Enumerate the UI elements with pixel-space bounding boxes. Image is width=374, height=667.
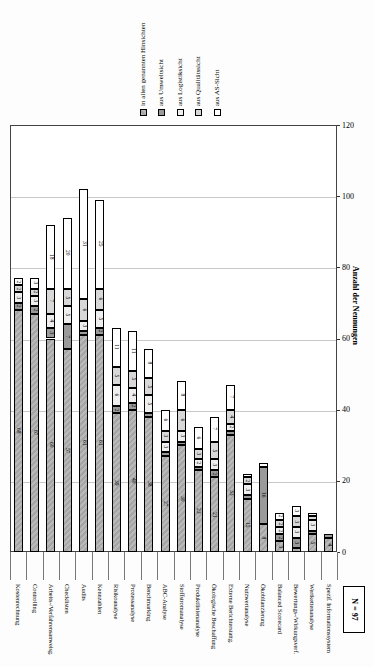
gridline-80 (11, 268, 336, 269)
category-tick-mark (92, 552, 93, 580)
gridline-40 (11, 411, 336, 412)
category-label: Ökobilanzierung (259, 584, 267, 626)
bar-segment (79, 189, 88, 299)
bar-segment (161, 410, 170, 431)
value-tick-mark (337, 267, 340, 268)
legend-swatch (214, 109, 221, 116)
bar-segment (210, 477, 219, 552)
bar-segment (275, 520, 284, 527)
bar-segment (112, 328, 121, 367)
category-tick-mark (190, 552, 191, 580)
category-label: Balanced Scorecard (276, 584, 284, 634)
legend-swatch (140, 109, 147, 116)
bar-segment (30, 289, 39, 296)
rotated-stacked-bar-chart: Anzahl der Nennungen N = 97 020406080100… (0, 0, 374, 667)
bar-segment (128, 410, 137, 552)
bar-segment (275, 534, 284, 541)
bar-segment (210, 442, 219, 460)
gridline-20 (11, 482, 336, 483)
bar-segment (63, 289, 72, 307)
legend-label: aus Umweltsicht (157, 59, 166, 106)
bar-segment (14, 278, 23, 285)
bar-segment (14, 292, 23, 303)
bar-segment (292, 548, 301, 552)
bar-segment (79, 321, 88, 332)
bar-segment (308, 520, 317, 531)
bar-segment (292, 516, 301, 527)
bar-segment (95, 289, 104, 310)
bar-segment (226, 431, 235, 435)
value-tick-label: 100 (342, 192, 354, 201)
value-tick-mark (337, 125, 340, 126)
bar-segment (79, 331, 88, 335)
category-tick-mark (288, 552, 289, 580)
bar-segment (324, 534, 333, 538)
legend-item: aus Logistiksicht (175, 58, 186, 116)
bar-segment (275, 513, 284, 520)
legend-label: aus Logistiksicht (176, 58, 185, 106)
bar-segment (194, 470, 203, 552)
value-tick-mark (337, 410, 340, 411)
bar-segment (30, 314, 39, 552)
bar-segment (210, 470, 219, 477)
category-label: Audits (80, 584, 88, 601)
bar-segment (243, 495, 252, 499)
bar-segment (95, 200, 104, 289)
bar-segment (144, 417, 153, 552)
bar-segment (46, 314, 55, 328)
bar-segment (95, 310, 104, 328)
bar-segment (308, 513, 317, 517)
category-label: Spezif. Informationssystem (325, 584, 333, 653)
bar-segment (128, 388, 137, 402)
legend-swatch (158, 109, 165, 116)
category-label: Risikoanalyse (112, 584, 120, 619)
category-label: Ökologische Beschaffung (210, 584, 218, 649)
bar-segment (63, 218, 72, 289)
gridline-60 (11, 340, 336, 341)
bar-segment (292, 506, 301, 517)
category-label: Nutzwertanalyse (243, 584, 251, 626)
bar-segment (30, 278, 39, 289)
category-tick-mark (75, 552, 76, 580)
bar-segment (259, 463, 268, 467)
category-label: Bewertungs-/Wirkungsverf. (292, 584, 300, 654)
bar-segment (177, 431, 186, 442)
bar-segment (308, 534, 317, 552)
bar-segment (210, 417, 219, 442)
bar-segment (46, 328, 55, 339)
bar-segment (259, 467, 268, 524)
category-label: Stoffstromanalyse (178, 584, 186, 629)
bar-segment (63, 349, 72, 552)
bar-segment (14, 310, 23, 552)
bar-segment (226, 424, 235, 431)
bar-segment (63, 306, 72, 324)
value-tick-label: 60 (342, 334, 350, 343)
category-tick-mark (43, 552, 44, 580)
sample-size-text: N = 97 (350, 598, 359, 620)
bar-segment (128, 403, 137, 410)
bar-segment (14, 303, 23, 310)
bar-segment (194, 467, 203, 471)
bar-segment (194, 449, 203, 460)
plot-area (10, 125, 337, 552)
legend-item: in allen genannten Hinsichten (138, 23, 149, 116)
bar-segment (226, 435, 235, 552)
category-label: ABC-Analyse (161, 584, 169, 620)
bar-segment (128, 331, 137, 370)
value-tick-label: 40 (342, 405, 350, 414)
bar-segment (243, 499, 252, 552)
bar-segment (46, 225, 55, 289)
category-label: Prozessanalyse (129, 584, 137, 622)
gridline-100 (11, 197, 336, 198)
bar-segment (226, 385, 235, 410)
category-label: Wertkettenanalyse (308, 584, 316, 630)
bar-segment (112, 413, 121, 552)
bar-segment (161, 442, 170, 453)
bar-segment (128, 371, 137, 389)
bar-segment (95, 328, 104, 335)
category-tick-mark (26, 552, 27, 580)
category-tick-mark (206, 552, 207, 580)
bar-segment (63, 324, 72, 349)
legend-label: in allen genannten Hinsichten (139, 23, 148, 106)
category-tick-mark (124, 552, 125, 580)
